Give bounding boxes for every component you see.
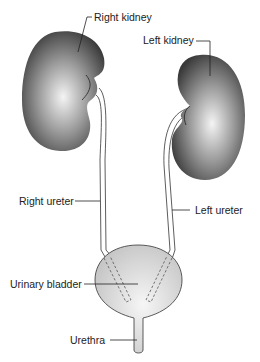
label-right-kidney: Right kidney (94, 11, 152, 23)
urinary-bladder (95, 245, 182, 353)
label-left-kidney: Left kidney (143, 34, 194, 46)
urinary-system-diagram (0, 0, 260, 362)
right-ureter (96, 88, 113, 262)
left-kidney (172, 55, 245, 180)
label-right-ureter: Right ureter (19, 195, 74, 207)
right-kidney (22, 31, 104, 151)
label-left-ureter: Left ureter (195, 204, 243, 216)
label-urethra: Urethra (70, 334, 105, 346)
label-urinary-bladder: Urinary bladder (10, 278, 82, 290)
